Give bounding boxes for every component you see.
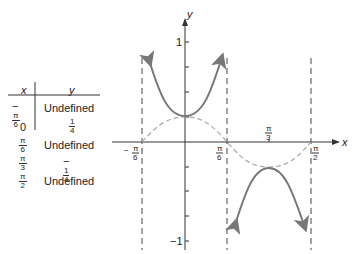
svg-text:2: 2 xyxy=(313,153,318,162)
svg-text:π: π xyxy=(133,144,139,153)
asymptotes xyxy=(142,58,311,250)
svg-text:π: π xyxy=(313,144,319,153)
svg-text:π: π xyxy=(266,124,272,133)
y-tick-1: 1 xyxy=(176,36,182,48)
branch-lower xyxy=(235,168,304,225)
graph: 1 −1 y x −π6 π6 π3 π2 xyxy=(0,0,354,254)
y-label: y xyxy=(186,8,194,20)
svg-text:−: − xyxy=(124,146,129,155)
svg-text:6: 6 xyxy=(217,153,222,162)
x-tick-labels: −π6 π6 π3 π2 xyxy=(124,124,319,162)
svg-text:3: 3 xyxy=(266,133,271,142)
svg-text:6: 6 xyxy=(133,153,138,162)
svg-text:π: π xyxy=(217,144,223,153)
x-label: x xyxy=(341,136,348,148)
y-tick-neg1: −1 xyxy=(170,235,183,247)
